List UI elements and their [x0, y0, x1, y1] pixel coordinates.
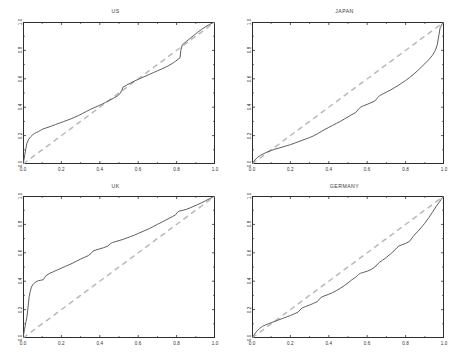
x-tick-label: 0.8	[173, 167, 180, 172]
x-tick-label: 0.6	[135, 167, 142, 172]
x-tick-labels-us: 0.00.20.40.60.81.0	[23, 167, 215, 177]
x-tick-label: 1.0	[441, 341, 448, 346]
x-tick-label: 0.8	[402, 341, 409, 346]
plot-area-uk	[23, 196, 215, 338]
y-tick-label: 0.6	[248, 79, 253, 86]
panel-title-japan: JAPAN	[231, 8, 458, 14]
y-tick-labels-germany: 0.00.20.40.60.81.0	[233, 196, 250, 338]
x-tick-label: 0.4	[325, 167, 332, 172]
x-tick-labels-germany: 0.00.20.40.60.81.0	[252, 341, 444, 351]
x-tick-label: 0.2	[287, 341, 294, 346]
plot-area-germany	[252, 196, 444, 338]
y-tick-label: 0.4	[248, 107, 253, 114]
plot-canvas-us	[23, 22, 215, 164]
panel-germany: GERMANY 0.00.20.40.60.81.0 0.00.20.40.60…	[231, 180, 458, 356]
panel-uk: UK 0.00.20.40.60.81.0 0.00.20.40.60.81.0	[2, 180, 229, 356]
y-tick-label: 0.2	[248, 310, 253, 317]
plot-svg-us	[23, 22, 215, 164]
figure-canvas: US 0.00.20.40.60.81.0 0.00.20.40.60.81.0…	[0, 0, 459, 357]
y-tick-label: 0.4	[19, 107, 24, 114]
x-tick-label: 0.4	[96, 341, 103, 346]
plot-canvas-germany	[252, 196, 444, 338]
reference-diagonal-uk	[23, 196, 215, 338]
y-tick-label: 0.8	[19, 224, 24, 231]
reference-diagonal-germany	[252, 196, 444, 338]
plot-svg-germany	[252, 196, 444, 338]
reference-diagonal-us	[23, 22, 215, 164]
plot-canvas-japan	[252, 22, 444, 164]
y-tick-label: 1.0	[19, 22, 24, 29]
panel-japan: JAPAN 0.00.20.40.60.81.0 0.00.20.40.60.8…	[231, 4, 458, 180]
x-tick-label: 0.2	[287, 167, 294, 172]
plot-svg-uk	[23, 196, 215, 338]
x-tick-label: 0.8	[173, 341, 180, 346]
reference-diagonal-japan	[252, 22, 444, 164]
y-tick-label: 0.8	[19, 50, 24, 57]
x-tick-label: 0.6	[135, 341, 142, 346]
y-tick-label: 0.0	[19, 338, 24, 345]
panel-title-uk: UK	[2, 183, 229, 189]
y-tick-label: 0.2	[19, 136, 24, 143]
y-tick-label: 1.0	[19, 196, 24, 203]
y-tick-label: 1.0	[248, 22, 253, 29]
panel-title-us: US	[2, 8, 229, 14]
panel-us: US 0.00.20.40.60.81.0 0.00.20.40.60.81.0	[2, 4, 229, 180]
y-tick-label: 0.6	[19, 253, 24, 260]
y-tick-label: 0.2	[248, 136, 253, 143]
y-tick-label: 0.0	[248, 164, 253, 171]
x-tick-label: 0.2	[58, 167, 65, 172]
x-tick-label: 0.4	[325, 341, 332, 346]
x-tick-labels-japan: 0.00.20.40.60.81.0	[252, 167, 444, 177]
y-tick-label: 0.2	[19, 310, 24, 317]
x-tick-label: 1.0	[441, 167, 448, 172]
y-tick-labels-uk: 0.00.20.40.60.81.0	[4, 196, 21, 338]
x-tick-label: 0.2	[58, 341, 65, 346]
plot-svg-japan	[252, 22, 444, 164]
y-tick-label: 0.0	[248, 338, 253, 345]
y-tick-labels-japan: 0.00.20.40.60.81.0	[233, 22, 250, 164]
plot-area-us	[23, 22, 215, 164]
x-tick-label: 0.6	[364, 341, 371, 346]
x-tick-label: 0.6	[364, 167, 371, 172]
y-tick-labels-us: 0.00.20.40.60.81.0	[4, 22, 21, 164]
y-tick-label: 0.8	[248, 50, 253, 57]
x-tick-label: 1.0	[212, 341, 219, 346]
panel-title-germany: GERMANY	[231, 183, 458, 189]
y-tick-label: 1.0	[248, 196, 253, 203]
x-tick-label: 1.0	[212, 167, 219, 172]
x-tick-label: 0.4	[96, 167, 103, 172]
x-tick-labels-uk: 0.00.20.40.60.81.0	[23, 341, 215, 351]
y-tick-label: 0.4	[248, 281, 253, 288]
plot-canvas-uk	[23, 196, 215, 338]
x-tick-label: 0.8	[402, 167, 409, 172]
y-tick-label: 0.8	[248, 224, 253, 231]
y-tick-label: 0.0	[19, 164, 24, 171]
plot-area-japan	[252, 22, 444, 164]
y-tick-label: 0.6	[248, 253, 253, 260]
y-tick-label: 0.6	[19, 79, 24, 86]
y-tick-label: 0.4	[19, 281, 24, 288]
